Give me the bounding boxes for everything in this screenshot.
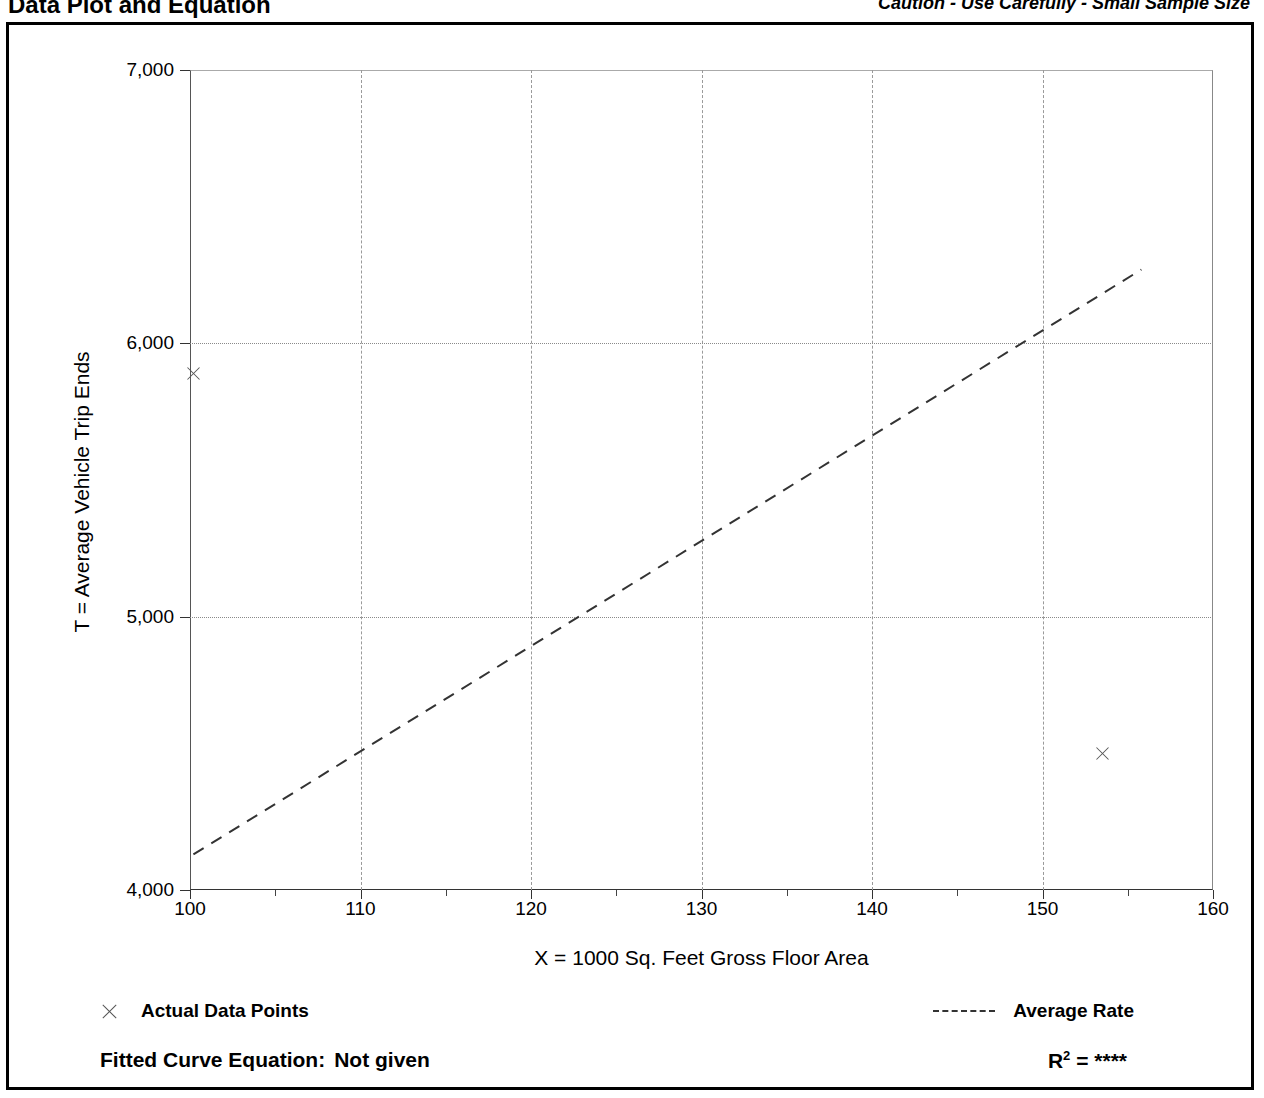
r-squared-exponent: 2 xyxy=(1063,1048,1070,1063)
legend-entry-average-rate: Average Rate xyxy=(933,1000,1134,1022)
fitted-curve-label: Fitted Curve Equation: xyxy=(100,1048,325,1071)
r-squared-statistic: R2 = **** xyxy=(1048,1048,1127,1073)
legend-label-average-rate: Average Rate xyxy=(1013,1000,1134,1022)
caution-note: Caution - Use Carefully - Small Sample S… xyxy=(878,0,1250,14)
equation-row: Fitted Curve Equation:Not given R2 = ***… xyxy=(0,1048,1264,1080)
chart-frame xyxy=(6,22,1254,1090)
page-header: Data Plot and Equation Caution - Use Car… xyxy=(0,0,1264,22)
legend-label-actual-data-points: Actual Data Points xyxy=(141,1000,309,1022)
r-squared-symbol: R xyxy=(1048,1049,1063,1072)
legend-entry-actual-data-points: Actual Data Points xyxy=(100,1000,309,1022)
fitted-curve-value: Not given xyxy=(334,1048,430,1071)
r-squared-value: **** xyxy=(1094,1049,1127,1072)
fitted-curve-equation: Fitted Curve Equation:Not given xyxy=(100,1048,430,1072)
x-cross-marker-icon xyxy=(100,1002,119,1021)
r-squared-equals: = xyxy=(1076,1049,1088,1072)
dashed-line-swatch-icon xyxy=(933,1010,995,1012)
page-title: Data Plot and Equation xyxy=(8,0,271,19)
chart-legend: Actual Data Points Average Rate xyxy=(0,1000,1264,1032)
